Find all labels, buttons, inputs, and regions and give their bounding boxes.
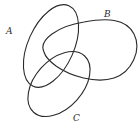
set-b-label: B	[103, 9, 111, 19]
venn-diagram: A B C	[0, 0, 140, 121]
set-c-label: C	[73, 113, 80, 121]
set-a-label: A	[5, 26, 13, 36]
set-a-curve	[12, 0, 90, 96]
set-a: A	[5, 0, 90, 96]
set-c-curve	[16, 40, 103, 121]
set-c: C	[16, 40, 103, 121]
